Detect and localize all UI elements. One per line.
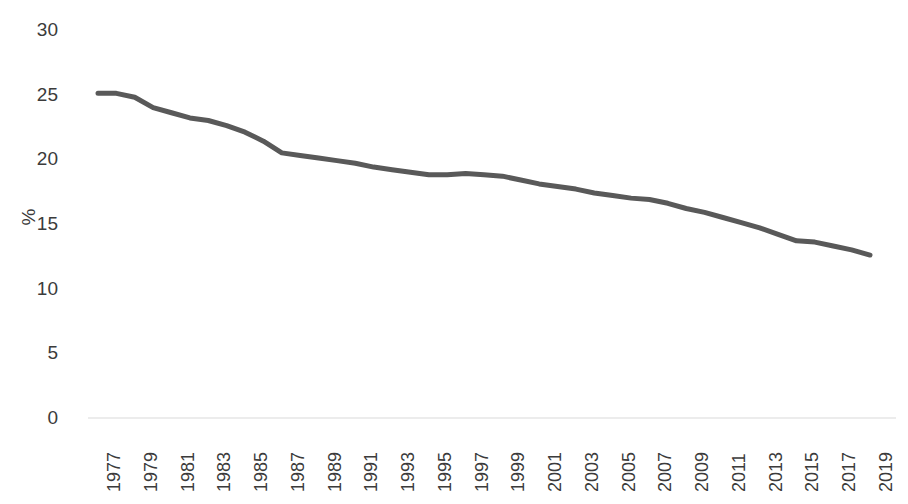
line-chart: % 051015202530 1977197919811983198519871… (0, 0, 908, 504)
data-series-line (98, 93, 870, 255)
plot-area (0, 0, 908, 504)
